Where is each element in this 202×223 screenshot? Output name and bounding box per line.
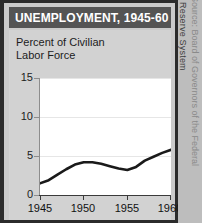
x-tick-1950	[83, 195, 84, 200]
panel-inner: UNEMPLOYMENT, 1945-60 Percent of Civilia…	[4, 3, 175, 220]
source-credit-column-overflow: Source: Board of Governors of the Federa…	[191, 0, 202, 223]
y-tick-15	[34, 78, 39, 79]
x-label-1945: 1945	[20, 202, 60, 214]
x-axis-line	[39, 195, 171, 196]
y-axis-labels: 15 10 5 0	[9, 30, 33, 220]
y-label-0: 0	[11, 188, 33, 200]
figure-title-bar: UNEMPLOYMENT, 1945-60	[9, 7, 171, 28]
y-tick-5	[34, 156, 39, 157]
chart-body: Percent of Civilian Labor Force 15	[9, 30, 171, 220]
x-label-1950: 1950	[63, 202, 103, 214]
unemployment-line-chart	[40, 78, 171, 195]
plot-wrapper: 15 10 5 0 1945 1950 1955 1960	[9, 30, 171, 220]
x-label-1955: 1955	[107, 202, 147, 214]
x-tick-1960	[170, 195, 171, 200]
y-label-15: 15	[11, 71, 33, 83]
source-credit-text-overflow: Source: Board of Governors of the Federa…	[191, 0, 200, 166]
page-title: UNEMPLOYMENT, 1945-60	[9, 11, 168, 25]
figure-panel: UNEMPLOYMENT, 1945-60 Percent of Civilia…	[0, 0, 178, 223]
y-label-10: 10	[11, 110, 33, 122]
x-tick-1945	[40, 195, 41, 200]
figure-root: UNEMPLOYMENT, 1945-60 Percent of Civilia…	[0, 0, 202, 223]
y-label-5: 5	[11, 149, 33, 161]
y-tick-10	[34, 117, 39, 118]
x-tick-1955	[127, 195, 128, 200]
source-credit-text: Reserve System	[178, 2, 188, 71]
